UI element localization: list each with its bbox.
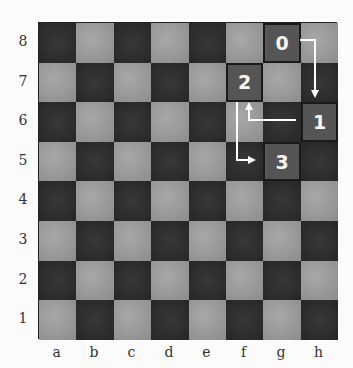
arrow-1-to-2 [249, 106, 296, 120]
arrow-0-to-1 [300, 40, 315, 94]
knight-path-arrows [0, 0, 353, 368]
